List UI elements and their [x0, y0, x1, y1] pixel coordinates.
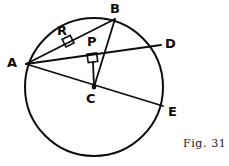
point-label-a: A	[7, 56, 17, 69]
point-label-c: C	[86, 92, 96, 105]
point-c-dot	[92, 85, 97, 90]
point-label-e: E	[168, 105, 177, 118]
point-label-d: D	[165, 37, 176, 50]
point-label-p: P	[87, 35, 97, 48]
point-label-r: R	[57, 24, 67, 37]
segment-cp	[93, 62, 94, 87]
figure-caption: Fig. 31	[183, 138, 226, 150]
point-label-b: B	[110, 2, 120, 15]
geometry-figure: A B C D E P R Fig. 31	[0, 0, 229, 166]
